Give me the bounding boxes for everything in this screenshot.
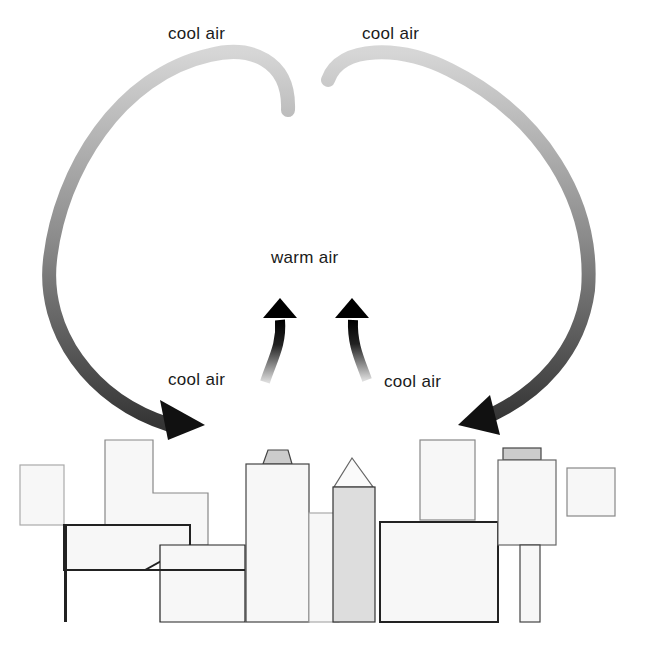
building bbox=[498, 460, 556, 545]
up-arrow-icon bbox=[263, 298, 297, 318]
warm-air-arrow-right bbox=[335, 298, 369, 380]
diagram-canvas bbox=[0, 0, 650, 654]
spire-roof bbox=[334, 458, 373, 487]
building bbox=[520, 545, 540, 622]
building-roof bbox=[503, 448, 541, 460]
label-warm-air: warm air bbox=[271, 248, 339, 268]
building bbox=[380, 522, 498, 622]
building bbox=[420, 440, 475, 520]
right-arrowhead-icon bbox=[458, 395, 500, 435]
building bbox=[160, 545, 245, 622]
city-skyline bbox=[20, 440, 615, 622]
warm-air-arrow-left bbox=[263, 298, 297, 382]
label-cool-air-top-left: cool air bbox=[168, 24, 225, 44]
building bbox=[20, 465, 64, 525]
label-cool-air-lower-right: cool air bbox=[384, 372, 441, 392]
up-arrow-icon bbox=[335, 298, 369, 318]
building bbox=[567, 468, 615, 516]
left-arrowhead-icon bbox=[160, 400, 205, 440]
label-cool-air-top-right: cool air bbox=[362, 24, 419, 44]
tower bbox=[333, 487, 375, 622]
building bbox=[246, 464, 309, 622]
label-cool-air-lower-left: cool air bbox=[168, 370, 225, 390]
building-roof bbox=[263, 450, 292, 464]
